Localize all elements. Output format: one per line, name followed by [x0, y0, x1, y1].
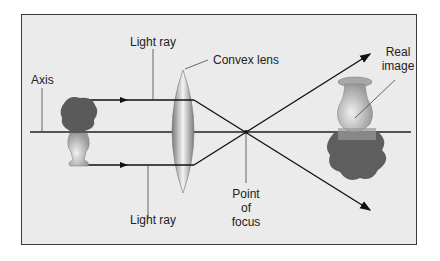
- arrow-icon: [120, 97, 128, 103]
- real-image-inverted: [327, 77, 386, 180]
- leader-line: [185, 60, 208, 69]
- label-axis: Axis: [31, 73, 54, 87]
- label-real-image-line2: image: [378, 59, 418, 73]
- label-point-of-focus: Point of focus: [226, 187, 266, 229]
- arrow-icon: [120, 162, 128, 168]
- label-real-image: Real image: [378, 45, 418, 73]
- lens-diagram: [0, 0, 440, 261]
- label-light-ray-top: Light ray: [130, 35, 176, 49]
- label-focus-line1: Point: [226, 187, 266, 201]
- label-focus-line2: of: [226, 201, 266, 215]
- convex-lens: [172, 70, 194, 193]
- label-light-ray-bottom: Light ray: [130, 213, 176, 227]
- label-convex-lens: Convex lens: [213, 53, 279, 67]
- label-real-image-line1: Real: [378, 45, 418, 59]
- label-focus-line3: focus: [226, 215, 266, 229]
